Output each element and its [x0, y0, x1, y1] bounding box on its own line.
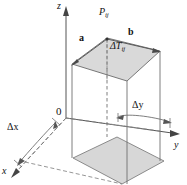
x-axis-label: x [2, 166, 6, 176]
delta-y-bracket-arrow-right [163, 119, 172, 124]
delta-x-bracket-arrow-bottom [17, 158, 25, 166]
delta-t-subscript: ij [121, 45, 125, 53]
x-axis-arrowhead [11, 168, 20, 178]
origin-label: 0 [56, 106, 62, 117]
y-axis-arrowhead [170, 130, 180, 137]
point-pij-marker [105, 37, 108, 40]
3d-box-diagram [0, 0, 187, 185]
base-face-shading [73, 137, 164, 184]
figure-container: z y x 0 Pij a b ΔTij Δx Δy [0, 0, 187, 185]
delta-y-bracket [118, 115, 170, 122]
z-axis-label: z [57, 1, 61, 11]
point-pij-subscript: ij [105, 11, 109, 19]
vector-b-label: b [128, 27, 134, 37]
base-edge-dashed-inner [66, 118, 160, 131]
delta-x-label: Δx [7, 122, 18, 132]
delta-t-base: ΔT [110, 40, 121, 51]
delta-y-label: Δy [132, 100, 143, 110]
vector-a-label: a [79, 33, 84, 43]
delta-x-bracket [18, 122, 56, 164]
z-axis-arrowhead [63, 6, 69, 16]
point-pij-label: Pij [99, 7, 109, 19]
y-axis-label: y [174, 140, 178, 150]
delta-t-label: ΔTij [110, 41, 125, 53]
